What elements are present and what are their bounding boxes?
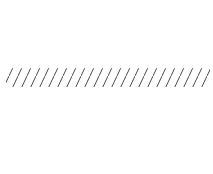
coordinate-grid-figure [0, 0, 213, 174]
shaded-region [6, 68, 210, 87]
